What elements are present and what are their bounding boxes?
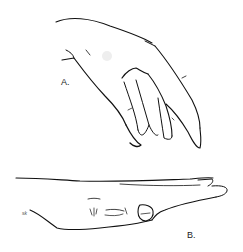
hand-drawing-svg bbox=[0, 0, 243, 252]
artist-signature: sk bbox=[22, 210, 27, 216]
hand-illustration: A. B. sk bbox=[0, 0, 243, 252]
panel-a-label: A. bbox=[61, 77, 70, 87]
panel-b-label: B. bbox=[187, 230, 196, 240]
panel-b-drawing bbox=[16, 178, 227, 230]
panel-a-drawing bbox=[56, 19, 201, 148]
